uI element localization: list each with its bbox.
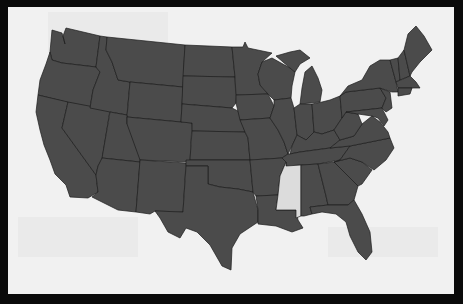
state-south-dakota[interactable] — [182, 76, 236, 108]
image-frame — [0, 0, 463, 304]
state-washington[interactable] — [50, 28, 100, 67]
state-arizona[interactable] — [92, 158, 140, 212]
state-wyoming[interactable] — [127, 82, 183, 122]
us-states-map — [8, 7, 454, 294]
map-canvas — [8, 7, 454, 294]
state-maine[interactable] — [404, 26, 432, 76]
state-north-dakota[interactable] — [183, 45, 235, 77]
state-connecticut[interactable] — [398, 88, 412, 96]
state-iowa[interactable] — [236, 94, 274, 120]
state-kansas[interactable] — [190, 131, 250, 160]
state-florida[interactable] — [310, 200, 372, 260]
state-montana[interactable] — [106, 37, 185, 87]
state-new-mexico[interactable] — [136, 160, 186, 214]
